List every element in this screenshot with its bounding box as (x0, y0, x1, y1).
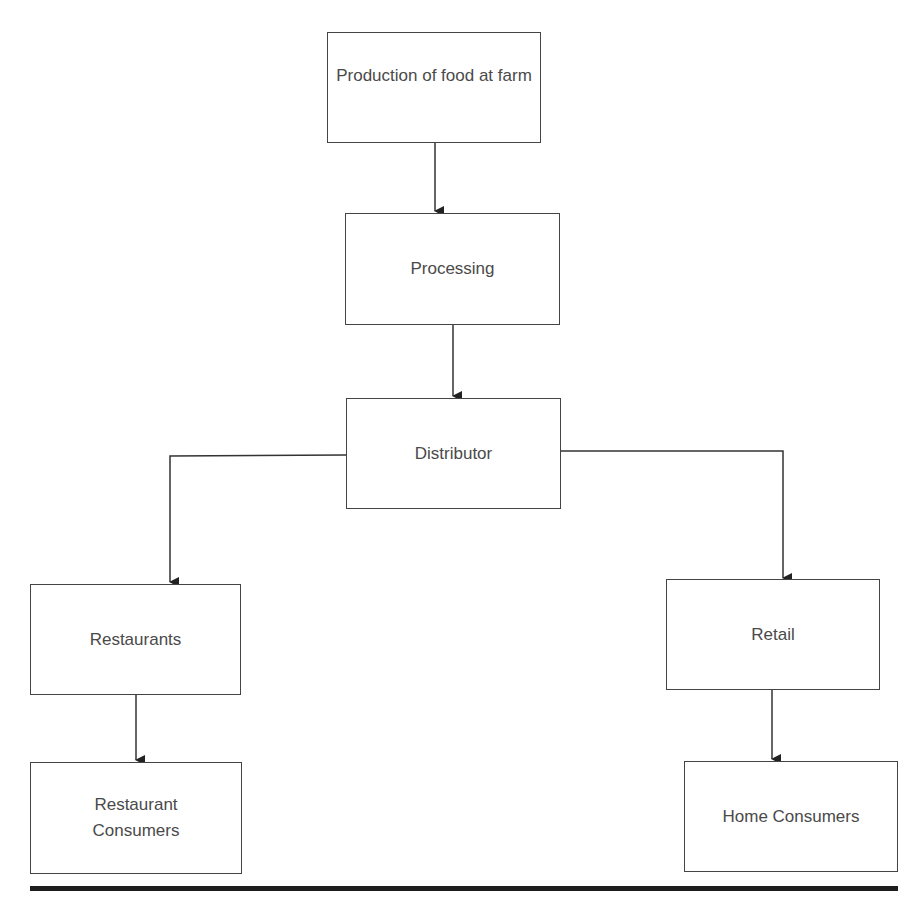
node-home-consumers: Home Consumers (684, 761, 898, 872)
node-farm-label: Production of food at farm (336, 63, 532, 89)
node-restaurant-consumers-label: Restaurant Consumers (76, 792, 196, 844)
arrow-distributor-to-retail (560, 451, 783, 578)
node-processing-label: Processing (410, 256, 494, 282)
node-farm: Production of food at farm (327, 32, 541, 143)
node-restaurants: Restaurants (30, 584, 241, 695)
node-processing: Processing (345, 213, 560, 325)
arrow-distributor-to-restaurants (170, 455, 346, 582)
node-restaurants-label: Restaurants (90, 627, 182, 653)
node-distributor: Distributor (346, 398, 561, 509)
bottom-rule (30, 886, 898, 891)
node-home-consumers-label: Home Consumers (723, 804, 860, 830)
node-retail-label: Retail (751, 622, 794, 648)
node-restaurant-consumers: Restaurant Consumers (30, 762, 242, 874)
node-retail: Retail (666, 579, 880, 690)
node-distributor-label: Distributor (415, 441, 492, 467)
